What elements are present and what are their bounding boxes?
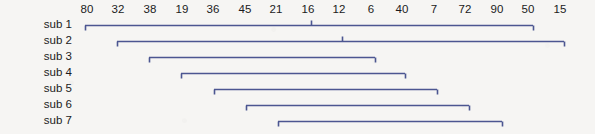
- bar-sub-1: [85, 21, 534, 31]
- bar-sub-4: [181, 74, 406, 79]
- alignment-chart: 803238193645211612640772905015 sub 1sub …: [0, 0, 595, 134]
- bar-sub-2: [117, 37, 565, 47]
- bar-sub-6: [246, 106, 470, 111]
- bar-sub-7: [278, 122, 503, 127]
- bars-layer: [0, 0, 595, 134]
- bar-sub-3: [149, 58, 376, 63]
- bar-sub-5: [214, 90, 438, 95]
